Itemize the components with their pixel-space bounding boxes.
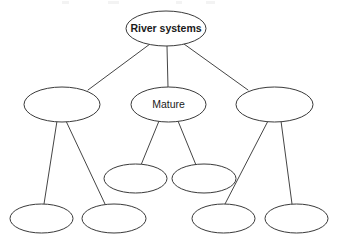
node-shape-leaf-mid-2[interactable] <box>172 164 236 193</box>
connector-edge-left-b1 <box>44 121 57 204</box>
node-leaf-bottom-1[interactable] <box>10 204 73 233</box>
node-branch-left[interactable] <box>24 87 100 122</box>
scan-artifact-4 <box>206 1 215 4</box>
node-branch-middle[interactable]: Mature <box>131 87 206 122</box>
connector-edge-right-b3 <box>225 121 268 204</box>
connector-edge-mid-m1 <box>141 121 159 165</box>
node-leaf-mid-2[interactable] <box>172 164 236 193</box>
scan-artifact-1 <box>62 1 69 4</box>
node-shape-leaf-bottom-2[interactable] <box>82 204 146 233</box>
connector-edge-left-b2 <box>66 121 105 204</box>
diagram-svg-canvas: River systemsMature <box>0 0 337 247</box>
node-shape-leaf-bottom-4[interactable] <box>265 204 328 233</box>
node-label-branch-middle: Mature <box>152 98 185 110</box>
connector-edge-root-left <box>88 44 150 90</box>
scan-artifact-3 <box>176 1 182 4</box>
node-branch-right[interactable] <box>236 87 313 122</box>
node-shape-branch-right[interactable] <box>236 87 313 122</box>
node-shape-leaf-bottom-1[interactable] <box>10 204 73 233</box>
concept-map-diagram: River systemsMature <box>0 0 337 247</box>
node-leaf-bottom-3[interactable] <box>192 204 255 233</box>
connector-lines-group <box>44 44 292 204</box>
node-root[interactable]: River systems <box>126 11 206 46</box>
node-leaf-bottom-2[interactable] <box>82 204 146 233</box>
connector-edge-mid-m2 <box>178 121 196 165</box>
connector-edge-root-right <box>184 44 248 90</box>
node-shape-branch-left[interactable] <box>24 87 100 122</box>
scan-artifact-2 <box>108 1 119 4</box>
node-leaf-mid-1[interactable] <box>104 164 167 193</box>
node-shape-leaf-bottom-3[interactable] <box>192 204 255 233</box>
connector-edge-right-b4 <box>281 121 292 204</box>
node-leaf-bottom-4[interactable] <box>265 204 328 233</box>
node-shape-leaf-mid-1[interactable] <box>104 164 167 193</box>
nodes-group: River systemsMature <box>10 11 328 233</box>
connector-edge-root-middle <box>167 46 168 87</box>
node-label-root: River systems <box>130 22 201 34</box>
